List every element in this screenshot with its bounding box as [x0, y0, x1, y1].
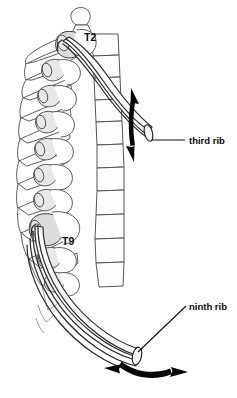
third-rib-callout: third rib	[152, 135, 225, 146]
ninth-rib-callout: ninth rib	[138, 301, 227, 352]
anatomy-figure: third rib ninth rib	[0, 0, 237, 398]
spine-rib-illustration: third rib ninth rib	[0, 0, 237, 398]
bucket-handle-arrow	[104, 362, 188, 378]
vertebra-label-t9: T9	[62, 235, 74, 247]
vertebra-label-t2: T2	[84, 31, 96, 43]
ninth-rib-label: ninth rib	[189, 301, 227, 312]
third-rib-label: third rib	[189, 135, 225, 146]
